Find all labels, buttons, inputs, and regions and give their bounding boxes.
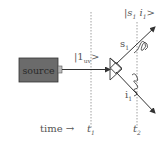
t2-label: t2 xyxy=(133,124,141,136)
t1-label: t1 xyxy=(87,124,95,136)
signal-wave-packet xyxy=(134,41,148,53)
idler-sub: 1 xyxy=(128,95,132,102)
t1-sub: 1 xyxy=(91,129,95,136)
signal-sub: 1 xyxy=(125,44,129,51)
idler-wave-packet xyxy=(132,74,138,96)
source-nozzle xyxy=(58,66,62,73)
pump-state-close: > xyxy=(91,51,99,62)
t2-sub: 2 xyxy=(137,129,141,136)
output-state-ket: |s xyxy=(124,7,133,18)
pump-state-ket: |1 xyxy=(74,51,84,62)
pump-state-label: |1uv> xyxy=(74,52,99,64)
signal-label: s1 xyxy=(120,39,129,51)
time-text: time xyxy=(40,123,63,134)
output-state-label: |s1 i1> xyxy=(124,8,155,20)
pump-state-sub: uv xyxy=(84,57,91,64)
idler-label: i1 xyxy=(125,90,132,102)
source-label: source xyxy=(19,58,58,82)
time-axis-label: time → xyxy=(40,124,74,134)
idler-arrow xyxy=(116,72,155,113)
time-arrow-icon: → xyxy=(66,123,74,134)
output-state-close: > xyxy=(147,7,155,18)
